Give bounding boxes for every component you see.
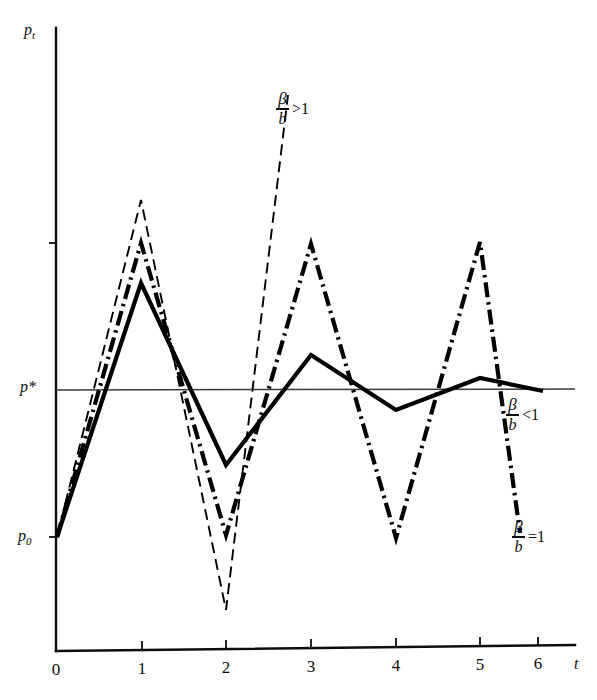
fraction-denominator: b	[507, 416, 519, 433]
figure-container: pt p* p0 0 1 2 3 4 5 6 t β b >1 β b <1	[0, 0, 597, 700]
x-tick-text-0: 0	[52, 660, 61, 679]
relation-divergent: >1	[292, 101, 309, 117]
annotation-convergent: β b <1	[506, 396, 539, 433]
x-tick-label-3: 3	[300, 658, 322, 675]
curve-convergent	[57, 283, 543, 537]
fraction-beta-over-b-convergent: β b	[506, 396, 519, 433]
x-tick-text-6: 6	[534, 654, 543, 673]
y-axis-label: pt	[24, 22, 35, 41]
fraction-numerator: β	[276, 90, 288, 108]
y-axis-label-text: p	[24, 21, 32, 38]
relation-convergent: <1	[522, 407, 539, 423]
y-axis-label-subscript: t	[32, 29, 35, 41]
equilibrium-value-label: p*	[20, 379, 36, 395]
x-axis-line	[56, 645, 575, 651]
x-tick-text-5: 5	[476, 655, 485, 674]
x-axis-label-text: t	[574, 655, 578, 672]
x-tick-label-1: 1	[131, 660, 153, 677]
equilibrium-line	[56, 389, 575, 390]
x-axis-label: t	[574, 656, 578, 672]
x-tick-label-4: 4	[385, 657, 407, 674]
fraction-denominator: b	[277, 110, 289, 127]
relation-persistent: =1	[528, 529, 545, 545]
fraction-numerator: β	[512, 518, 524, 536]
initial-value-subscript: 0	[26, 535, 32, 547]
x-tick-text-1: 1	[138, 659, 147, 678]
x-tick-text-4: 4	[392, 656, 401, 675]
fraction-beta-over-b-persistent: β b	[512, 518, 525, 555]
x-tick-text-2: 2	[222, 658, 231, 677]
x-tick-label-0: 0	[45, 661, 67, 678]
initial-value-label: p0	[18, 528, 32, 547]
annotation-persistent: β b =1	[512, 518, 545, 555]
x-tick-text-3: 3	[307, 657, 316, 676]
x-tick-label-5: 5	[469, 656, 491, 673]
fraction-numerator: β	[506, 396, 518, 414]
fraction-denominator: b	[513, 538, 525, 555]
equilibrium-value-text: p*	[20, 378, 36, 395]
annotation-divergent: β b >1	[276, 90, 309, 127]
initial-value-text: p	[18, 527, 26, 544]
x-tick-label-6: 6	[527, 655, 549, 672]
fraction-beta-over-b-divergent: β b	[276, 90, 289, 127]
x-tick-label-2: 2	[215, 659, 237, 676]
